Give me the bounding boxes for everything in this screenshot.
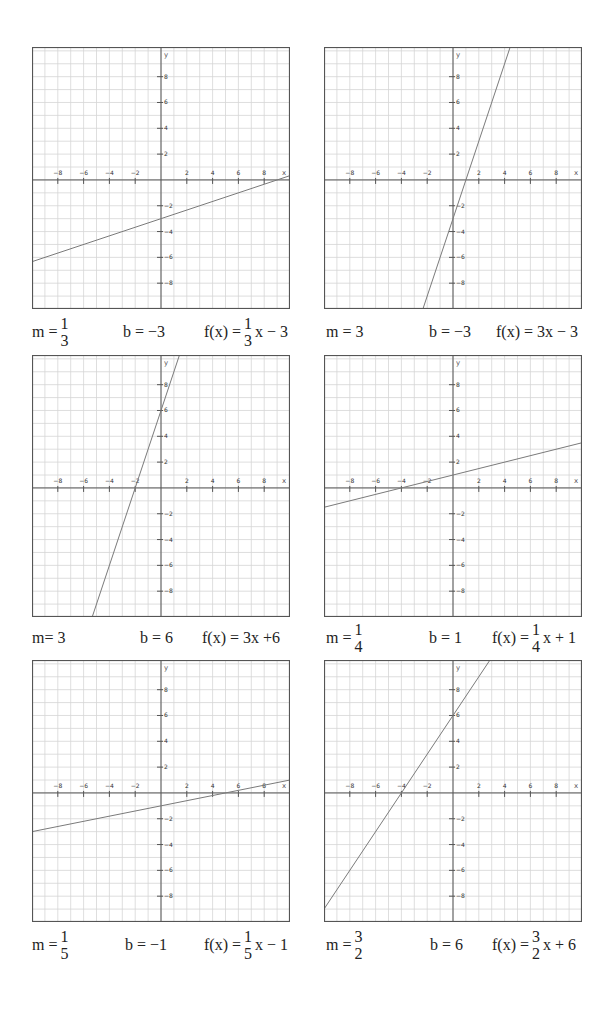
y-tick-label: −6	[164, 253, 173, 260]
function-suffix: x − 1	[255, 936, 288, 954]
numerator: 1	[60, 928, 68, 945]
y-axis-label: y	[456, 51, 460, 59]
caption-4: m = 14 b = 1 f(x) = 14 x + 1	[326, 618, 596, 658]
x-tick-label: 4	[211, 782, 215, 789]
x-tick-label: −2	[423, 169, 432, 176]
x-tick-label: −4	[105, 169, 114, 176]
function-suffix: x − 3	[255, 323, 288, 341]
slope-fraction: 14	[354, 621, 362, 655]
y-tick-label: 4	[164, 432, 168, 439]
x-tick-label: 2	[185, 782, 189, 789]
y-tick-label: 2	[456, 150, 460, 157]
function-fraction: 32	[532, 928, 540, 962]
x-tick-label: 8	[554, 782, 558, 789]
slope-prefix: m =	[326, 629, 351, 647]
slope-prefix: m =	[32, 936, 57, 954]
y-tick-label: −2	[164, 510, 173, 517]
y-tick-label: −4	[456, 536, 465, 543]
denominator: 5	[244, 945, 252, 962]
numerator: 1	[244, 315, 252, 332]
y-tick-label: 2	[164, 150, 168, 157]
function-prefix: f(x) =	[204, 936, 241, 954]
y-tick-label: 6	[164, 98, 168, 105]
intercept-label: b = −1	[125, 925, 167, 965]
function-fraction: 14	[532, 621, 540, 655]
x-tick-label: −8	[345, 169, 354, 176]
y-tick-label: 8	[456, 381, 460, 388]
y-tick-label: −2	[456, 815, 465, 822]
x-axis-label: x	[282, 169, 286, 177]
denominator: 3	[60, 332, 68, 349]
caption-1: m = 13 b = −3 f(x) = 13 x − 3	[32, 312, 302, 352]
x-tick-label: −6	[79, 782, 88, 789]
x-tick-label: 4	[211, 169, 215, 176]
function-prefix: f(x) =	[492, 936, 529, 954]
function-fraction: 13	[244, 315, 252, 349]
slope-fraction: 32	[354, 928, 362, 962]
y-tick-label: 4	[456, 737, 460, 744]
y-tick-label: −4	[456, 228, 465, 235]
y-tick-label: 6	[456, 98, 460, 105]
y-tick-label: −8	[456, 892, 465, 899]
y-tick-label: −2	[164, 815, 173, 822]
x-tick-label: 4	[503, 782, 507, 789]
x-tick-label: 8	[554, 477, 558, 484]
y-tick-label: 2	[164, 458, 168, 465]
y-tick-label: 6	[456, 406, 460, 413]
x-axis-label: x	[574, 169, 578, 177]
x-tick-label: −4	[105, 782, 114, 789]
y-tick-label: 2	[164, 763, 168, 770]
y-tick-label: 2	[456, 763, 460, 770]
caption-2: m = 3 b = −3 f(x) = 3x − 3	[326, 312, 596, 352]
numerator: 1	[60, 315, 68, 332]
x-tick-label: −8	[53, 477, 62, 484]
graph-3: −8−6−4−224688642−2−4−6−8xy	[32, 355, 290, 617]
graph-5: −8−6−4−224688642−2−4−6−8xy	[32, 660, 290, 922]
y-tick-label: −6	[456, 866, 465, 873]
x-tick-label: −6	[371, 477, 380, 484]
function-prefix: f(x) =	[492, 629, 529, 647]
x-tick-label: −6	[79, 169, 88, 176]
numerator: 1	[532, 621, 540, 638]
y-tick-label: 8	[164, 686, 168, 693]
y-axis-label: y	[456, 664, 460, 672]
y-tick-label: −8	[456, 279, 465, 286]
x-tick-label: 4	[503, 169, 507, 176]
y-tick-label: −8	[164, 892, 173, 899]
x-tick-label: −8	[53, 782, 62, 789]
graph-4: −8−6−4−224688642−2−4−6−8xy	[324, 355, 582, 617]
intercept-label: b = 1	[429, 618, 462, 658]
x-tick-label: −6	[79, 477, 88, 484]
x-axis-label: x	[574, 477, 578, 485]
numerator: 1	[244, 928, 252, 945]
y-axis-label: y	[164, 664, 168, 672]
y-tick-label: −4	[164, 228, 173, 235]
function-label: f(x) = 32 x + 6	[492, 925, 576, 965]
function-label: f(x) = 3x +6	[202, 618, 280, 658]
caption-3: m= 3 b = 6 f(x) = 3x +6	[32, 618, 302, 658]
graph-panel-1: −8−6−4−224688642−2−4−6−8xy	[32, 47, 290, 309]
slope-label: m = 15	[32, 925, 71, 965]
x-tick-label: 6	[236, 169, 240, 176]
slope-label: m= 3	[32, 618, 65, 658]
x-tick-label: 6	[236, 782, 240, 789]
numerator: 3	[532, 928, 540, 945]
x-tick-label: 2	[477, 477, 481, 484]
y-tick-label: −4	[164, 536, 173, 543]
x-tick-label: 6	[528, 169, 532, 176]
x-tick-label: −8	[53, 169, 62, 176]
y-tick-label: 4	[164, 737, 168, 744]
x-tick-label: −6	[371, 782, 380, 789]
slope-label: m = 13	[32, 312, 71, 352]
slope-prefix: m =	[32, 323, 57, 341]
x-tick-label: 8	[554, 169, 558, 176]
y-tick-label: 6	[164, 406, 168, 413]
intercept-label: b = 6	[140, 618, 173, 658]
slope-prefix: m =	[326, 936, 351, 954]
denominator: 2	[532, 945, 540, 962]
y-tick-label: 6	[164, 711, 168, 718]
y-tick-label: 8	[164, 381, 168, 388]
x-axis-label: x	[282, 477, 286, 485]
function-fraction: 15	[244, 928, 252, 962]
graph-panel-4: −8−6−4−224688642−2−4−6−8xy	[324, 355, 582, 617]
